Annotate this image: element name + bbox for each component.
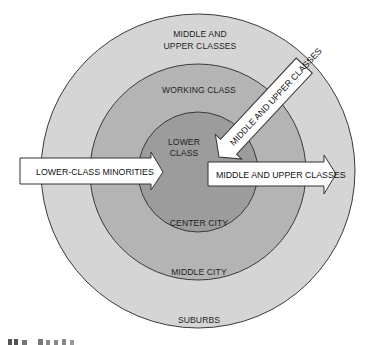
arrow-lower-class-minorities: LOWER-CLASS MINORITIES	[20, 152, 163, 190]
inner-place-label: CENTER CITY	[170, 218, 229, 228]
inner-group-label-line2: CLASS	[170, 148, 199, 158]
caption-fragment	[8, 339, 74, 345]
outer-place-label: SUBURBS	[178, 315, 220, 325]
arrow-label-middle-upper-outward: MIDDLE AND UPPER CLASSES	[216, 170, 346, 180]
urban-zones-diagram: MIDDLE AND UPPER CLASSES WORKING CLASS L…	[0, 0, 377, 345]
middle-place-label: MIDDLE CITY	[171, 267, 227, 277]
arrow-label-lower-class-minorities: LOWER-CLASS MINORITIES	[36, 167, 154, 177]
middle-group-label: WORKING CLASS	[162, 85, 236, 95]
inner-group-label-line1: LOWER	[168, 137, 200, 147]
outer-group-label-line1: MIDDLE AND	[173, 29, 227, 39]
outer-group-label-line2: UPPER CLASSES	[164, 41, 237, 51]
